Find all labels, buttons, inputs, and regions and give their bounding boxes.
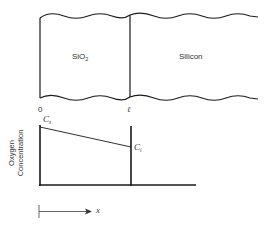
- ci-subscript: i: [140, 147, 142, 153]
- ci-label: Ci: [134, 143, 142, 154]
- sio2-label: SiO2: [72, 53, 88, 63]
- sio2-label-text: SiO: [72, 52, 85, 61]
- silicon-label: Silicon: [179, 53, 203, 61]
- bottom-wavy-edge: [40, 95, 258, 100]
- origin-label: 0: [38, 106, 42, 114]
- cs-label: Cs: [43, 115, 51, 126]
- diagram-canvas: [0, 0, 271, 229]
- concentration-profile-line: [40, 127, 131, 147]
- x-axis-label: x: [96, 206, 100, 215]
- interface-position-label: ℓ: [127, 106, 130, 114]
- y-axis-label-line1: Oxygen: [7, 123, 16, 183]
- cs-subscript: s: [49, 119, 51, 125]
- y-axis-label: Oxygen Concentration: [7, 123, 25, 183]
- y-axis-label-line2: Concentration: [16, 123, 25, 183]
- top-wavy-edge: [40, 13, 258, 18]
- sio2-subscript: 2: [85, 56, 88, 62]
